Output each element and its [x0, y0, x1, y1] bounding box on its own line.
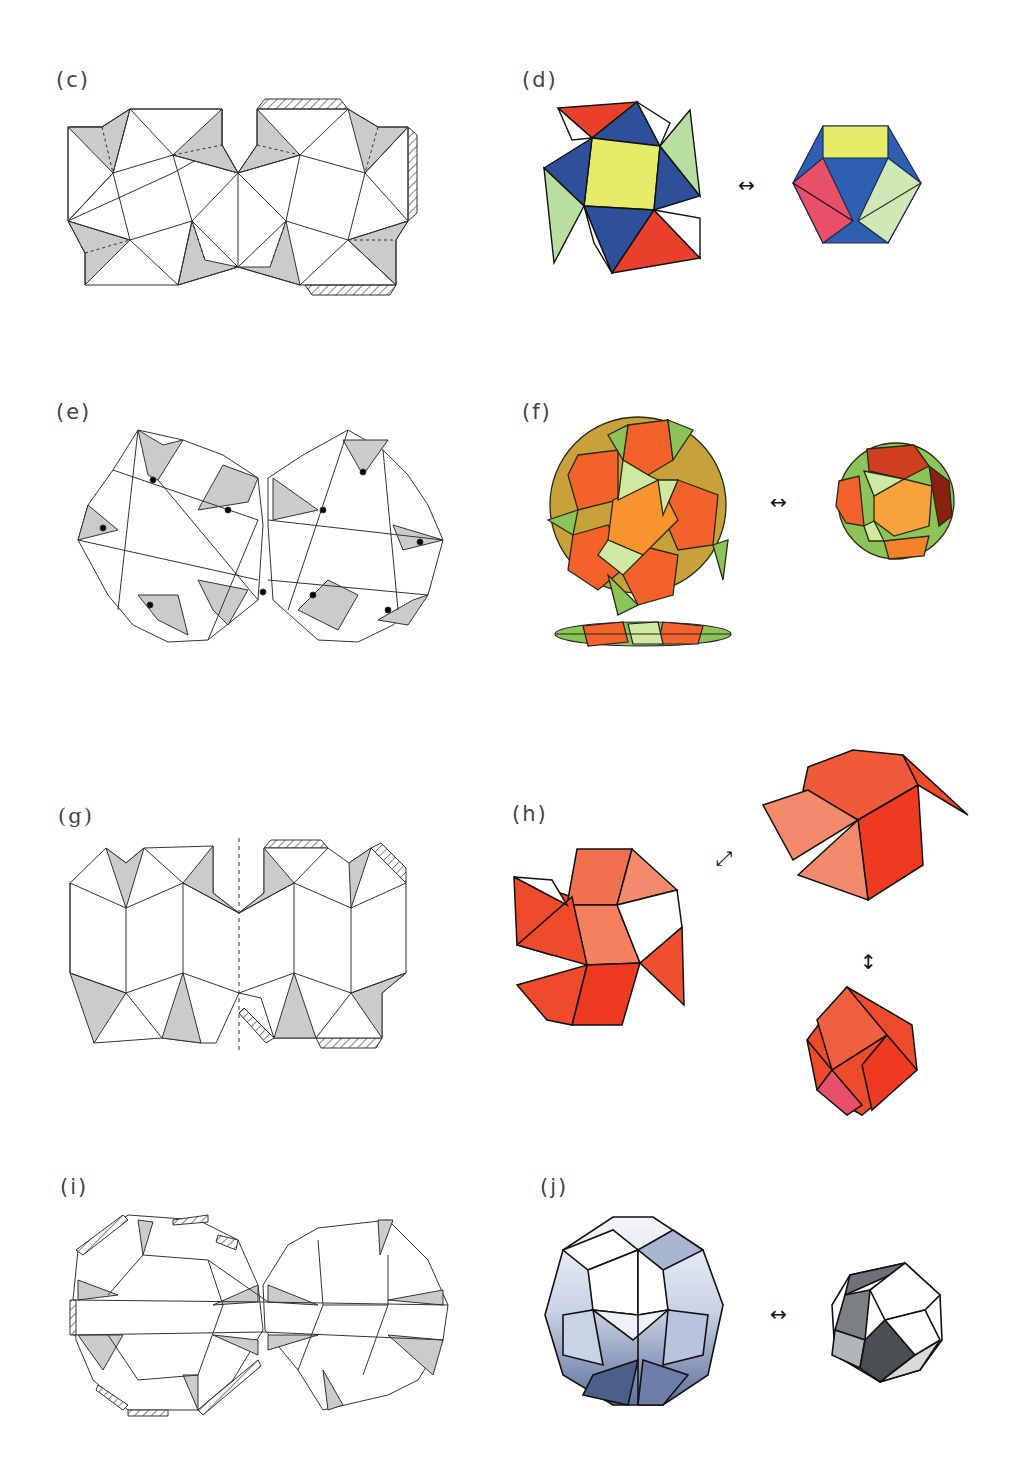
model-h-partial-svg — [758, 745, 968, 905]
arrow-f-bidirectional-icon: ↔ — [770, 492, 787, 512]
panel-label-h: (h) — [512, 802, 548, 826]
arrow-h-diagonal-icon: ⤢ — [716, 848, 732, 868]
panel-h-folded-polyhedron — [802, 985, 922, 1120]
model-h-flat-svg — [512, 845, 692, 1025]
panel-label-d: (d) — [522, 68, 558, 92]
panel-j-folded-polyhedron — [830, 1260, 945, 1385]
panel-c-net-diagram — [60, 95, 430, 305]
panel-f-folded-polyhedron — [834, 441, 959, 561]
panel-f-expanded-model — [548, 405, 728, 600]
net-c-svg — [60, 95, 430, 305]
model-h-polyhedron-svg — [802, 985, 922, 1120]
model-d-flat-svg — [540, 98, 710, 278]
panel-h-flat-model — [512, 845, 692, 1025]
panel-label-g: (g) — [58, 804, 94, 828]
arrow-d-bidirectional-icon: ↔ — [738, 175, 755, 195]
model-j-polyhedron-svg — [830, 1260, 945, 1385]
arrow-h-vertical-icon: ↕ — [860, 952, 877, 972]
panel-label-i: (i) — [60, 1175, 88, 1199]
net-e-svg — [58, 410, 478, 635]
panel-d-flat-model — [540, 98, 710, 278]
net-i-svg — [68, 1210, 458, 1415]
net-g-svg — [66, 838, 416, 1038]
panel-f-flattened-model — [553, 614, 733, 654]
panel-label-j: (j) — [540, 1175, 568, 1199]
model-d-cubocta-svg — [793, 123, 928, 248]
model-f-flat-svg — [553, 614, 733, 654]
panel-j-expanded-model — [543, 1215, 728, 1410]
panel-h-partial-folded — [758, 745, 968, 905]
panel-d-cuboctahedron — [793, 123, 928, 248]
model-j-expanded-svg — [543, 1215, 728, 1410]
model-f-polyhedron-svg — [834, 441, 959, 561]
panel-i-net-diagram — [68, 1210, 458, 1415]
model-f-expanded-svg — [548, 405, 728, 600]
panel-label-c: (c) — [56, 68, 90, 92]
arrow-j-bidirectional-icon: ↔ — [770, 1304, 787, 1324]
panel-e-net-diagram — [58, 410, 478, 635]
panel-g-net-diagram — [66, 838, 416, 1038]
